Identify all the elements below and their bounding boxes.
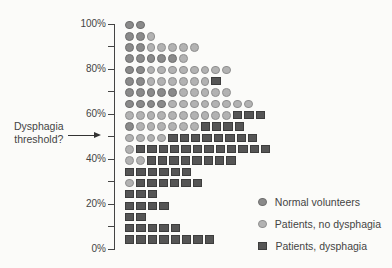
patient-dysphagia-marker [169,156,178,164]
legend-item-normal: Normal volunteers [258,191,381,213]
patient-no-dysphagia-marker [179,77,188,86]
patient-no-dysphagia-marker [136,134,145,143]
normal-volunteer-marker [125,43,134,52]
patient-no-dysphagia-marker [125,179,134,188]
arrow-shaft-icon [68,135,96,136]
patient-no-dysphagia-marker [179,111,188,120]
patient-dysphagia-marker [159,168,168,176]
patient-dysphagia-marker [171,224,180,232]
patient-no-dysphagia-marker [190,122,199,131]
bin-row [125,122,244,132]
patient-dysphagia-marker [193,145,202,153]
bin-row [125,66,231,76]
normal-volunteer-marker [136,88,145,97]
patient-dysphagia-marker [136,179,145,187]
patient-dysphagia-marker [159,145,168,153]
patient-dysphagia-marker [233,111,242,119]
patient-no-dysphagia-marker [233,100,242,109]
bin-row [125,88,231,98]
patient-no-dysphagia-marker [168,122,177,131]
patient-dysphagia-marker [148,224,157,232]
patient-dysphagia-marker [159,224,168,232]
patient-dysphagia-marker [225,134,234,142]
normal-volunteer-marker [157,100,166,109]
patient-dysphagia-marker [148,168,157,176]
legend-item-dysphagia: Patients, dysphagia [258,235,381,257]
patient-dysphagia-marker [226,156,235,164]
normal-volunteer-marker [136,32,145,41]
patient-dysphagia-marker [159,235,168,243]
patient-dysphagia-marker [147,179,156,187]
y-minor-tick [108,91,114,92]
patient-dysphagia-marker [256,111,265,119]
patient-dysphagia-marker [205,235,214,243]
patient-dysphagia-marker [136,145,145,153]
patient-dysphagia-marker [171,235,180,243]
patient-dysphagia-marker [125,168,134,176]
patient-dysphagia-marker [244,111,253,119]
patient-dysphagia-marker [223,122,232,130]
y-tick [108,249,114,250]
y-minor-tick [108,46,114,47]
patient-no-dysphagia-marker [125,111,134,120]
patient-no-dysphagia-marker [222,66,231,75]
patient-dysphagia-marker [235,122,244,130]
normal-volunteer-marker [125,32,134,41]
normal-volunteer-marker [147,54,156,63]
patient-no-dysphagia-marker [125,156,134,165]
bin-row [125,235,214,245]
patient-no-dysphagia-marker [125,145,134,154]
normal-volunteer-marker [147,100,156,109]
y-tick-label: 40% [86,153,106,164]
patient-dysphagia-marker [147,156,156,164]
bin-row [125,54,188,64]
patient-no-dysphagia-marker [168,43,177,52]
patient-no-dysphagia-marker [190,100,199,109]
y-minor-tick [108,181,114,182]
normal-volunteer-marker [168,88,177,97]
y-tick-label: 0% [92,243,106,254]
patient-dysphagia-marker [136,202,145,210]
patient-no-dysphagia-marker [190,66,199,75]
normal-volunteer-marker [136,54,145,63]
y-tick-label: 20% [86,198,106,209]
patient-no-dysphagia-marker [147,43,156,52]
patient-no-dysphagia-marker [179,43,188,52]
patient-no-dysphagia-marker [190,77,199,86]
y-axis-line [114,24,115,250]
normal-volunteer-marker [125,21,134,30]
y-tick [108,204,114,205]
patient-no-dysphagia-marker [136,156,145,165]
patient-no-dysphagia-marker [211,111,220,120]
patient-no-dysphagia-marker [157,66,166,75]
patient-no-dysphagia-marker [179,100,188,109]
bin-row [125,190,157,200]
patient-dysphagia-marker [215,156,224,164]
y-tick [108,114,114,115]
y-tick-label: 80% [86,63,106,74]
patient-no-dysphagia-marker [211,66,220,75]
patient-dysphagia-marker [192,156,201,164]
patient-dysphagia-marker [125,224,134,232]
patient-dysphagia-marker [148,190,157,198]
bin-row [125,77,221,87]
bin-row [125,156,236,166]
bin-row [125,224,180,234]
bin-row [125,32,155,42]
patient-no-dysphagia-marker [244,100,253,109]
patient-dysphagia-marker [170,179,179,187]
patient-no-dysphagia-marker [147,122,156,131]
normal-volunteer-marker [157,88,166,97]
patient-dysphagia-marker [212,122,221,130]
patient-no-dysphagia-marker [136,122,145,131]
patient-dysphagia-marker [216,145,225,153]
patient-dysphagia-marker [171,168,180,176]
y-tick [108,69,114,70]
legend: Normal volunteers Patients, no dysphagia… [258,191,381,257]
light-circle-icon [258,220,267,229]
dark-circle-icon [258,198,267,207]
y-tick-label: 60% [86,108,106,119]
patient-dysphagia-marker [125,235,134,243]
patient-no-dysphagia-marker [179,122,188,131]
patient-dysphagia-marker [238,145,247,153]
